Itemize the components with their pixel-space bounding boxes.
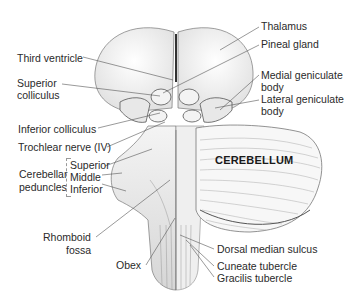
label-third-ventricle: Third ventricle bbox=[17, 52, 83, 64]
label-cerebellar-peduncles-line1: Cerebellar bbox=[19, 168, 67, 180]
label-gracilis-tubercle: Gracilis tubercle bbox=[217, 272, 292, 284]
label-superior-colliculus-line1: Superior bbox=[17, 77, 57, 89]
cerebellum-shape bbox=[196, 125, 322, 232]
label-superior-colliculus-line2: colliculus bbox=[17, 89, 60, 101]
label-inferior-colliculus: Inferior colliculus bbox=[18, 123, 96, 135]
label-cerebellum: CEREBELLUM bbox=[215, 154, 293, 166]
label-pineal-gland: Pineal gland bbox=[261, 38, 319, 50]
label-lateral-geniculate-line2: body bbox=[261, 105, 284, 117]
label-dorsal-median-sulcus: Dorsal median sulcus bbox=[217, 243, 317, 255]
label-lateral-geniculate-line1: Lateral geniculate bbox=[261, 93, 344, 105]
label-rhomboid-fossa-line1: Rhomboid bbox=[43, 231, 91, 243]
label-medial-geniculate-line1: Medial geniculate bbox=[261, 69, 343, 81]
label-peduncle-middle: Middle bbox=[70, 171, 101, 183]
label-obex: Obex bbox=[116, 259, 141, 271]
label-peduncle-inferior: Inferior bbox=[70, 183, 103, 195]
label-rhomboid-fossa-line2: fossa bbox=[66, 244, 91, 256]
label-trochlear-nerve: Trochlear nerve (IV) bbox=[18, 141, 111, 153]
label-peduncle-superior: Superior bbox=[70, 159, 110, 171]
label-cerebellar-peduncles-line2: peduncles bbox=[19, 181, 67, 193]
label-cuneate-tubercle: Cuneate tubercle bbox=[217, 260, 297, 272]
label-medial-geniculate-line2: body bbox=[261, 81, 284, 93]
label-thalamus: Thalamus bbox=[261, 20, 307, 32]
thalamus-shape bbox=[95, 28, 253, 112]
